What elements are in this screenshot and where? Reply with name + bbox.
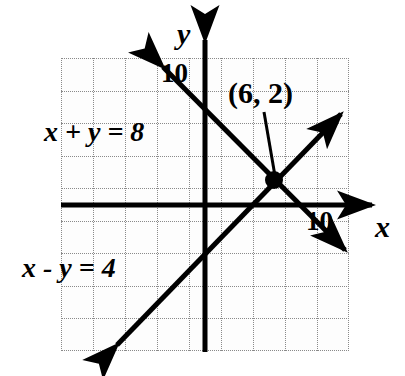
grid-line-vertical xyxy=(125,58,126,351)
grid-line-horizontal xyxy=(61,286,349,287)
grid-line-horizontal xyxy=(61,58,349,59)
x-axis-label: x xyxy=(375,212,390,242)
grid-line-vertical xyxy=(221,58,222,351)
grid-line-vertical xyxy=(93,58,94,351)
grid-line-horizontal xyxy=(61,188,349,189)
grid-line-horizontal xyxy=(61,91,349,92)
grid-line-horizontal xyxy=(61,318,349,319)
intersection-point-label: (6, 2) xyxy=(228,78,293,108)
grid-line-vertical xyxy=(157,58,158,351)
grid-line-vertical xyxy=(61,58,62,351)
grid-line-vertical xyxy=(348,58,349,351)
equation-label-line1: x + y = 8 xyxy=(44,118,144,146)
equation-label-line2: x - y = 4 xyxy=(22,254,116,282)
grid-line-horizontal xyxy=(61,156,349,157)
x-axis-tick-label-10: 10 xyxy=(306,208,333,235)
coordinate-grid xyxy=(61,58,349,351)
y-axis-tick-label-10: 10 xyxy=(161,60,188,87)
graph-figure: y x 10 10 x + y = 8 x - y = 4 (6, 2) xyxy=(0,0,405,376)
grid-line-horizontal xyxy=(61,350,349,351)
grid-line-vertical xyxy=(317,58,318,351)
grid-line-vertical xyxy=(189,58,190,351)
y-axis-label: y xyxy=(177,19,190,49)
